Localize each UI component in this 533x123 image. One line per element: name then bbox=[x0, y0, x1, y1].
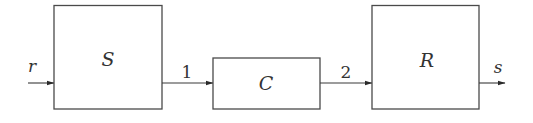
block-r: R bbox=[372, 6, 479, 110]
block-c: C bbox=[213, 58, 320, 109]
input-label: r bbox=[28, 56, 37, 76]
edge-2-label: 2 bbox=[341, 62, 352, 82]
block-diagram: r S 1 C 2 R s bbox=[0, 0, 533, 123]
edge-c-to-r: 2 bbox=[320, 62, 372, 83]
edge-s-to-c: 1 bbox=[162, 62, 213, 83]
edge-1-label: 1 bbox=[182, 62, 193, 82]
block-s-label: S bbox=[101, 48, 114, 70]
output-signal: s bbox=[479, 57, 505, 83]
input-signal: r bbox=[28, 56, 54, 83]
output-label: s bbox=[494, 57, 503, 77]
block-r-label: R bbox=[419, 49, 434, 71]
block-s: S bbox=[54, 6, 162, 110]
block-c-label: C bbox=[259, 72, 274, 94]
